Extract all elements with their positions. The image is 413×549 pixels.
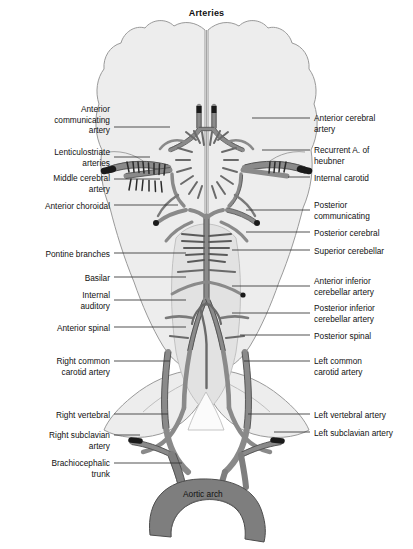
label-superior-cerebellar: Superior cerebellar	[314, 246, 412, 257]
label-internal-auditory: Internal auditory	[8, 290, 110, 311]
label-posterior-communicating: Posterior communicating	[314, 200, 412, 221]
right-ica-cut-end	[300, 169, 309, 171]
aortic-arch-label: Aortic arch	[183, 489, 253, 500]
right-aica-cut-end	[240, 292, 245, 297]
label-anterior-choroidal: Anterior choroidal	[8, 201, 110, 212]
right-aca-cut-end	[212, 106, 217, 113]
arteries-diagram: Arteries	[0, 0, 413, 549]
label-left-vertebral-artery: Left vertebral artery	[314, 410, 412, 421]
label-anterior-inferior-cerebellar-artery: Anterior inferior cerebellar artery	[314, 276, 412, 297]
label-lenticulostriate-arteries: Lenticulostriate arteries	[14, 147, 110, 168]
left-ica-cut-end	[104, 169, 113, 171]
label-recurrent-a-of-heubner: Recurrent A. of heubner	[314, 145, 412, 166]
right-pca-cut-end	[254, 220, 260, 226]
left-aca-cut-end	[197, 106, 202, 113]
label-right-subclavian-artery: Right subclavian artery	[8, 430, 110, 451]
label-posterior-cerebral: Posterior cerebral	[314, 228, 412, 239]
label-anterior-communicating-artery: Anterior communicating artery	[14, 104, 110, 136]
label-anterior-cerebral-artery: Anterior cerebral artery	[314, 113, 412, 134]
label-anterior-spinal: Anterior spinal	[8, 323, 110, 334]
label-left-common-carotid-artery: Left common carotid artery	[314, 356, 412, 377]
label-right-vertebral: Right vertebral	[8, 410, 110, 421]
left-subclavian-cut-end	[273, 440, 282, 441]
label-basilar: Basilar	[8, 273, 110, 284]
left-subclavian-root	[241, 455, 246, 487]
label-left-subclavian-artery: Left subclavian artery	[314, 428, 412, 439]
figure-title: Arteries	[0, 8, 413, 18]
label-posterior-spinal: Posterior spinal	[314, 331, 412, 342]
label-right-common-carotid-artery: Right common carotid artery	[14, 356, 110, 377]
label-posterior-inferior-cerebellar-artery: Posterior inferior cerebellar artery	[314, 303, 412, 324]
label-pontine-branches: Pontine branches	[8, 249, 110, 260]
left-pca-cut-end	[153, 220, 159, 226]
right-subclavian-cut-end	[131, 440, 140, 441]
label-brachiocephalic-trunk: Brachiocephalic trunk	[8, 458, 110, 479]
label-middle-cerebral-artery: Middle cerebral artery	[14, 173, 110, 194]
label-internal-carotid: Internal carotid	[314, 173, 412, 184]
